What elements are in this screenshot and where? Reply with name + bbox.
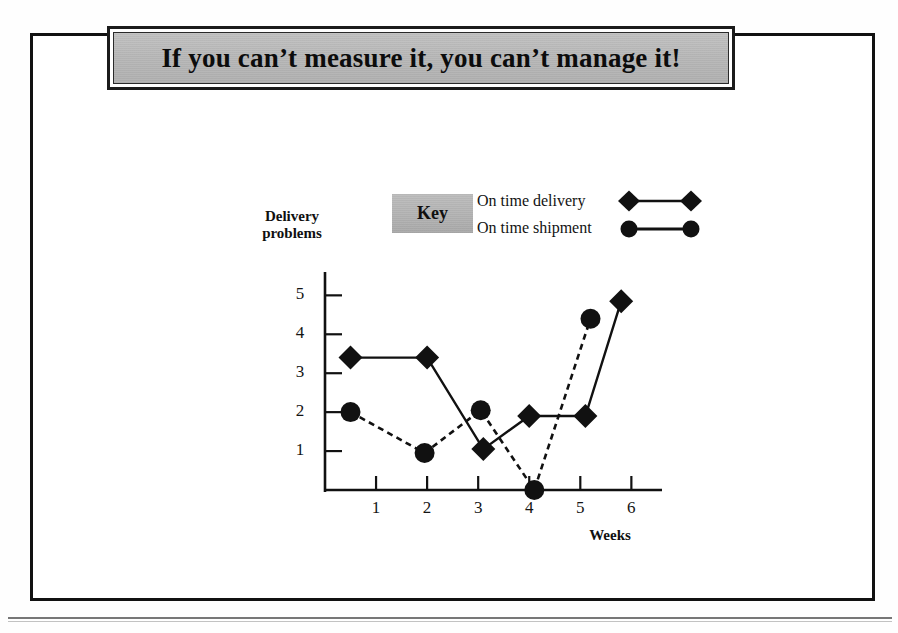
legend-item-on-time-delivery: On time delivery bbox=[477, 190, 705, 212]
legend-item-label: On time shipment bbox=[477, 219, 615, 237]
legend-key-label: Key bbox=[417, 203, 448, 224]
x-axis-title: Weeks bbox=[570, 527, 650, 544]
x-tick-label: 5 bbox=[570, 498, 590, 518]
x-tick-label: 1 bbox=[366, 498, 386, 518]
y-tick-label: 4 bbox=[290, 323, 310, 343]
legend-item-label: On time delivery bbox=[477, 192, 615, 210]
y-tick-label: 1 bbox=[290, 440, 310, 460]
legend-sample-circle bbox=[615, 217, 705, 239]
slide-frame bbox=[30, 33, 875, 601]
y-axis-title-line2: problems bbox=[254, 225, 330, 242]
page-rule bbox=[8, 617, 892, 619]
page-rule-secondary bbox=[8, 621, 892, 622]
page-title: If you can’t measure it, you can’t manag… bbox=[161, 43, 680, 74]
y-tick-label: 3 bbox=[290, 362, 310, 382]
x-tick-label: 6 bbox=[621, 498, 641, 518]
title-banner-inner: If you can’t measure it, you can’t manag… bbox=[113, 32, 729, 84]
scanned-page: If you can’t measure it, you can’t manag… bbox=[0, 0, 898, 633]
x-tick-label: 4 bbox=[519, 498, 539, 518]
legend-sample-diamond bbox=[615, 190, 705, 212]
y-tick-label: 2 bbox=[290, 401, 310, 421]
x-tick-label: 2 bbox=[417, 498, 437, 518]
y-axis-title: Delivery problems bbox=[254, 208, 330, 242]
legend-item-on-time-shipment: On time shipment bbox=[477, 217, 705, 239]
title-banner: If you can’t measure it, you can’t manag… bbox=[107, 26, 735, 90]
y-tick-label: 5 bbox=[290, 284, 310, 304]
y-axis-title-line1: Delivery bbox=[265, 208, 319, 224]
legend-key-box: Key bbox=[392, 194, 473, 233]
x-tick-label: 3 bbox=[468, 498, 488, 518]
